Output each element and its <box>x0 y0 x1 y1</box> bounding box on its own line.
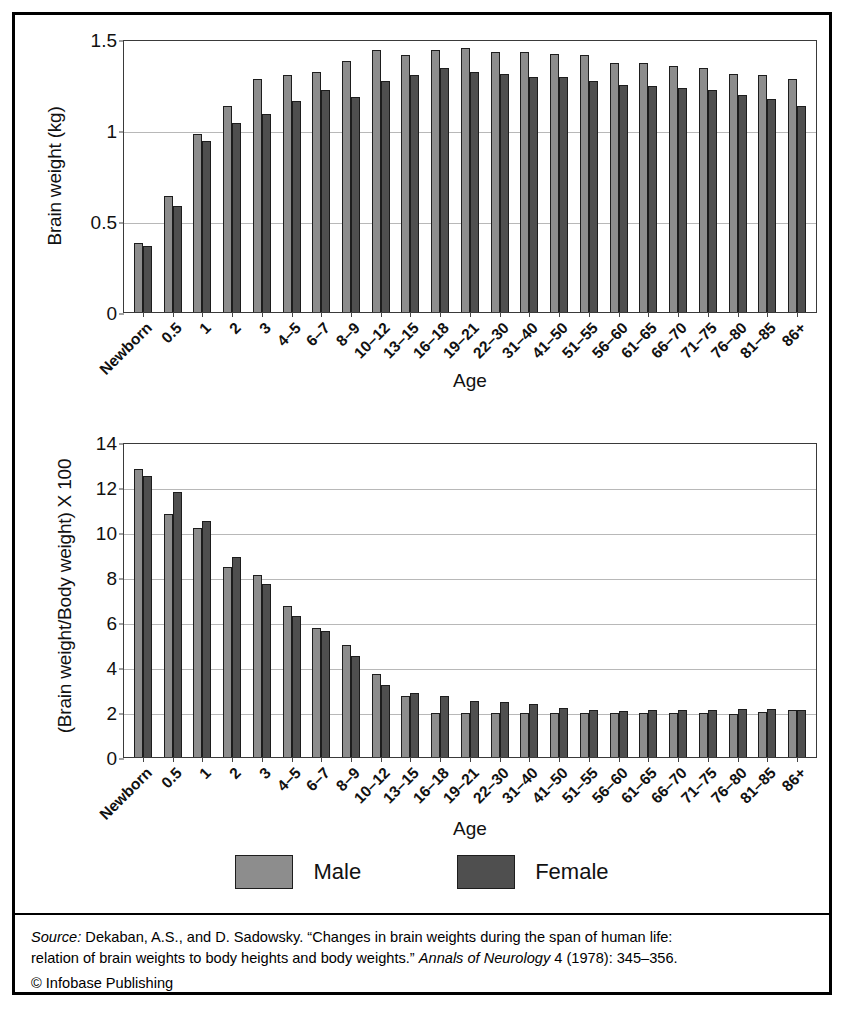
bar-female <box>351 97 360 312</box>
x-tick-mark <box>678 757 679 762</box>
x-tick-mark <box>529 312 530 317</box>
bar-group <box>544 444 574 757</box>
bar-group <box>217 41 247 312</box>
bar-group <box>515 41 545 312</box>
x-tick-mark <box>232 757 233 762</box>
bar-female <box>202 141 211 312</box>
bar-male <box>729 714 738 757</box>
x-tick-mark <box>381 312 382 317</box>
bar-female <box>351 656 360 757</box>
chart2-bars <box>124 444 816 757</box>
chart1-y-tick-label: 0.5 <box>91 212 117 234</box>
bar-group <box>752 444 782 757</box>
x-tick-mark <box>738 757 739 762</box>
footer-divider <box>15 913 829 915</box>
bar-male <box>550 54 559 312</box>
x-tick-mark <box>738 312 739 317</box>
x-tick-mark <box>321 312 322 317</box>
bar-group <box>544 41 574 312</box>
x-tick-label: 2 <box>226 764 245 783</box>
bar-female <box>381 81 390 312</box>
chart2-y-tick-label: 10 <box>96 523 117 545</box>
source-journal-name: Annals of Neurology <box>419 950 550 966</box>
bar-group <box>574 41 604 312</box>
bar-group <box>485 444 515 757</box>
bar-group <box>693 444 723 757</box>
bar-female <box>292 101 301 312</box>
chart2-y-tick-label: 12 <box>96 478 117 500</box>
bar-male <box>461 713 470 757</box>
x-tick-mark <box>470 312 471 317</box>
bar-male <box>461 48 470 312</box>
chart-legend: Male Female <box>15 855 829 889</box>
bar-female <box>678 710 687 757</box>
bar-female <box>173 492 182 758</box>
x-tick-label: 0.5 <box>157 764 185 792</box>
bar-male <box>401 696 410 757</box>
bar-male <box>729 74 738 312</box>
bar-female <box>232 123 241 312</box>
bar-male <box>164 514 173 757</box>
bar-group <box>128 41 158 312</box>
x-tick-mark <box>292 312 293 317</box>
bar-female <box>589 710 598 757</box>
bar-male <box>491 52 500 312</box>
bar-group <box>455 444 485 757</box>
x-tick-mark <box>797 757 798 762</box>
bar-female <box>321 90 330 312</box>
bar-male <box>431 50 440 312</box>
chart-brain-weight: Brain weight (kg) 00.511.5 Newborn0.5123… <box>15 15 829 400</box>
bar-male <box>283 75 292 312</box>
bar-female <box>529 704 538 757</box>
x-tick-mark <box>648 757 649 762</box>
bar-group <box>277 41 307 312</box>
bar-female <box>262 584 271 757</box>
x-tick-mark <box>440 312 441 317</box>
bar-male <box>253 79 262 312</box>
bar-male <box>669 713 678 757</box>
legend-swatch-male <box>235 855 293 889</box>
bar-group <box>752 41 782 312</box>
x-tick-label: 0.5 <box>157 319 185 347</box>
bar-male <box>520 52 529 312</box>
bar-male <box>669 66 678 312</box>
bar-male <box>193 528 202 758</box>
bar-female <box>410 693 419 757</box>
bar-group <box>158 41 188 312</box>
bar-group <box>663 41 693 312</box>
x-tick-mark <box>500 312 501 317</box>
bar-group <box>128 444 158 757</box>
source-label: Source: <box>31 929 81 945</box>
bar-female <box>143 246 152 312</box>
bar-female <box>292 616 301 757</box>
bar-male <box>520 713 529 757</box>
chart-brain-body-ratio: (Brain weight/Body weight) X 100 0246810… <box>15 415 829 845</box>
chart1-y-axis-label: Brain weight (kg) <box>44 56 66 296</box>
bar-female <box>767 709 776 757</box>
chart1-plot-area: 00.511.5 Newborn0.51234–56–78–910–1213–1… <box>123 40 817 313</box>
chart1-bars <box>124 41 816 312</box>
bar-male <box>610 713 619 757</box>
source-text-part2: relation of brain weights to body height… <box>31 950 419 966</box>
bar-group <box>663 444 693 757</box>
chart1-y-tick-label: 0 <box>106 303 117 325</box>
bar-male <box>312 72 321 312</box>
x-tick-mark <box>589 312 590 317</box>
legend-label-female: Female <box>535 859 608 885</box>
bar-female <box>708 90 717 312</box>
legend-item-female: Female <box>457 855 608 889</box>
legend-swatch-female <box>457 855 515 889</box>
bar-group <box>782 444 812 757</box>
bar-male <box>223 567 232 757</box>
bar-male <box>550 713 559 757</box>
figure-border: Brain weight (kg) 00.511.5 Newborn0.5123… <box>12 12 832 995</box>
x-tick-mark <box>529 757 530 762</box>
bar-male <box>580 713 589 757</box>
legend-label-male: Male <box>313 859 361 885</box>
x-tick-mark <box>648 312 649 317</box>
bar-male <box>164 196 173 312</box>
bar-female <box>202 521 211 757</box>
bar-female <box>143 476 152 757</box>
x-tick-mark <box>708 312 709 317</box>
bar-male <box>372 50 381 312</box>
